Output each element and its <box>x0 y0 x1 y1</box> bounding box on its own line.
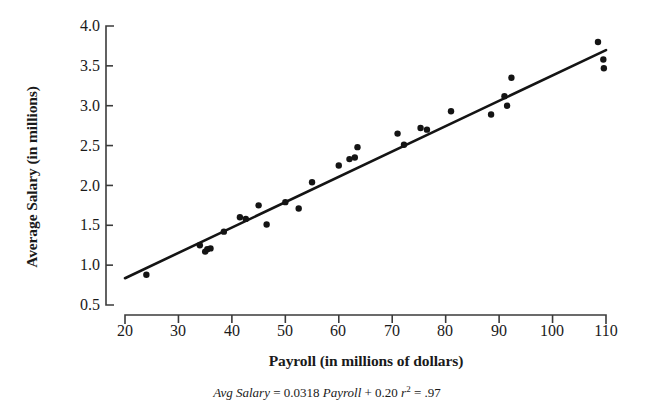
data-point <box>295 205 301 211</box>
regression-equation-caption: Avg Salary = 0.0318 Payroll + 0.20 r2 = … <box>0 384 654 401</box>
equation-variable: Payroll <box>320 385 362 400</box>
data-point <box>255 202 261 208</box>
data-point <box>508 75 514 81</box>
y-axis-ticks <box>106 66 113 265</box>
data-point <box>237 214 243 220</box>
equation-equals-2: = <box>411 385 425 400</box>
data-point <box>263 221 269 227</box>
data-point <box>501 93 507 99</box>
data-point <box>448 108 454 114</box>
equation-r-squared-value: .97 <box>425 385 441 400</box>
data-point <box>417 125 423 131</box>
data-point <box>488 111 494 117</box>
x-axis-line <box>125 315 606 324</box>
scatter-plot-figure: Average Salary (in millions) 4.0 3.5 3.0… <box>0 0 654 409</box>
data-point <box>243 216 249 222</box>
data-point <box>394 130 400 136</box>
data-point <box>309 179 315 185</box>
data-point <box>352 154 358 160</box>
data-point <box>221 228 227 234</box>
data-point <box>197 242 203 248</box>
data-point <box>600 56 606 62</box>
axis-layer <box>106 26 606 324</box>
data-point <box>595 39 601 45</box>
data-point <box>207 245 213 251</box>
data-point <box>143 272 149 278</box>
data-point <box>601 65 607 71</box>
equation-lhs: Avg Salary <box>213 385 270 400</box>
data-point <box>424 126 430 132</box>
plot-canvas <box>0 0 654 409</box>
y-axis-line <box>106 26 114 305</box>
data-point <box>401 142 407 148</box>
data-point <box>336 162 342 168</box>
equation-plus: + <box>361 385 375 400</box>
equation-intercept: 0.20 <box>375 385 398 400</box>
x-axis-ticks <box>178 315 552 323</box>
x-axis-title: Payroll (in millions of dollars) <box>125 352 607 370</box>
data-point <box>282 199 288 205</box>
equation-equals-1: = <box>270 385 284 400</box>
data-point <box>504 103 510 109</box>
equation-r-symbol: r <box>398 385 406 400</box>
equation-slope: 0.0318 <box>284 385 320 400</box>
data-point <box>354 144 360 150</box>
